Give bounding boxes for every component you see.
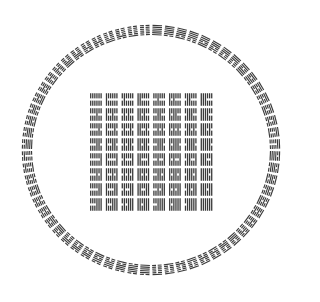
yin-line bbox=[152, 266, 162, 268]
square-hexagram-cell bbox=[106, 198, 118, 211]
ring-hexagram bbox=[61, 54, 75, 68]
yin-line bbox=[152, 272, 162, 274]
yin-line bbox=[159, 93, 160, 106]
ring-hexagram bbox=[23, 127, 35, 138]
yang-line bbox=[195, 198, 196, 211]
yang-line bbox=[173, 198, 174, 211]
ring-hexagram-slot bbox=[38, 205, 52, 218]
ring-hexagram-slot bbox=[208, 246, 221, 260]
yin-line bbox=[112, 153, 113, 166]
ring-hexagram-slot bbox=[115, 260, 127, 272]
ring-hexagram bbox=[22, 151, 33, 161]
yang-line bbox=[164, 183, 165, 196]
yin-line bbox=[185, 198, 186, 211]
square-hexagram bbox=[169, 183, 181, 196]
yin-line bbox=[94, 153, 95, 166]
yin-line bbox=[142, 108, 143, 121]
yang-line bbox=[159, 198, 160, 211]
yang-line bbox=[114, 123, 115, 136]
square-hexagram-cell bbox=[122, 123, 134, 136]
yin-line bbox=[187, 39, 196, 43]
yin-line bbox=[148, 93, 149, 106]
yang-line bbox=[30, 187, 34, 196]
yin-line bbox=[116, 123, 117, 136]
yin-line bbox=[100, 93, 101, 106]
yang-line bbox=[275, 151, 277, 161]
yang-line bbox=[112, 138, 113, 151]
square-hexagram-cell bbox=[153, 93, 165, 106]
yin-line bbox=[185, 93, 186, 106]
ring-hexagram bbox=[152, 25, 162, 36]
yang-line bbox=[189, 183, 190, 196]
yin-line bbox=[128, 123, 129, 136]
yin-line bbox=[94, 183, 95, 196]
ring-hexagram-slot bbox=[52, 62, 66, 76]
square-hexagram-cell bbox=[90, 138, 102, 151]
yin-line bbox=[275, 139, 277, 149]
yin-line bbox=[179, 108, 180, 121]
yang-line bbox=[189, 93, 190, 106]
square-hexagram bbox=[153, 153, 165, 166]
yin-line bbox=[171, 153, 172, 166]
ring-hexagram bbox=[44, 215, 58, 229]
yang-line bbox=[207, 168, 208, 181]
yin-line bbox=[185, 168, 186, 181]
ring-hexagram-slot bbox=[268, 162, 280, 173]
yang-line bbox=[187, 168, 188, 181]
ring-hexagram bbox=[81, 246, 94, 260]
yin-line bbox=[162, 168, 163, 181]
square-hexagram bbox=[137, 198, 149, 211]
yin-line bbox=[211, 123, 212, 136]
yang-line bbox=[203, 183, 204, 196]
ring-hexagram-slot bbox=[81, 246, 94, 260]
yang-line bbox=[189, 108, 190, 121]
square-hexagram bbox=[90, 198, 102, 211]
yin-line bbox=[110, 93, 111, 106]
square-hexagram-cell bbox=[106, 123, 118, 136]
yin-line bbox=[152, 270, 162, 272]
ring-hexagram bbox=[265, 115, 277, 127]
yang-line bbox=[201, 123, 202, 136]
yang-line bbox=[112, 198, 113, 211]
square-hexagram bbox=[185, 153, 197, 166]
ring-hexagram-slot bbox=[244, 72, 258, 86]
yang-line bbox=[157, 153, 158, 166]
ring-hexagram-slot bbox=[22, 139, 33, 149]
yin-line bbox=[110, 108, 111, 121]
yang-line bbox=[207, 138, 208, 151]
ring-hexagram-slot bbox=[140, 25, 150, 36]
square-hexagram-cell bbox=[169, 93, 181, 106]
ring-hexagram-slot bbox=[244, 215, 258, 229]
yang-line bbox=[137, 153, 138, 166]
yang-line bbox=[140, 153, 141, 166]
yin-line bbox=[153, 153, 154, 166]
yang-line bbox=[211, 198, 212, 211]
yang-line bbox=[162, 198, 163, 211]
yang-line bbox=[140, 93, 141, 106]
yang-line bbox=[130, 123, 131, 136]
yin-line bbox=[22, 151, 24, 161]
ring-hexagram bbox=[175, 260, 187, 272]
square-hexagram bbox=[153, 183, 165, 196]
yin-line bbox=[112, 93, 113, 106]
ring-hexagram bbox=[244, 72, 258, 86]
yang-line bbox=[157, 168, 158, 181]
yang-line bbox=[203, 123, 204, 136]
yin-line bbox=[110, 198, 111, 211]
yin-line bbox=[128, 183, 129, 196]
yin-line bbox=[162, 153, 163, 166]
square-hexagram-cell bbox=[185, 138, 197, 151]
yang-line bbox=[132, 183, 133, 196]
yang-line bbox=[116, 168, 117, 181]
ring-hexagram bbox=[164, 263, 175, 275]
square-hexagram-cell bbox=[153, 138, 165, 151]
yin-line bbox=[146, 168, 147, 181]
yin-line bbox=[92, 93, 93, 106]
square-hexagram bbox=[153, 108, 165, 121]
square-hexagram bbox=[137, 153, 149, 166]
ring-hexagram-slot bbox=[25, 115, 37, 127]
yang-line bbox=[175, 168, 176, 181]
yin-line bbox=[108, 138, 109, 151]
yang-line bbox=[124, 198, 125, 211]
yin-line bbox=[155, 108, 156, 121]
